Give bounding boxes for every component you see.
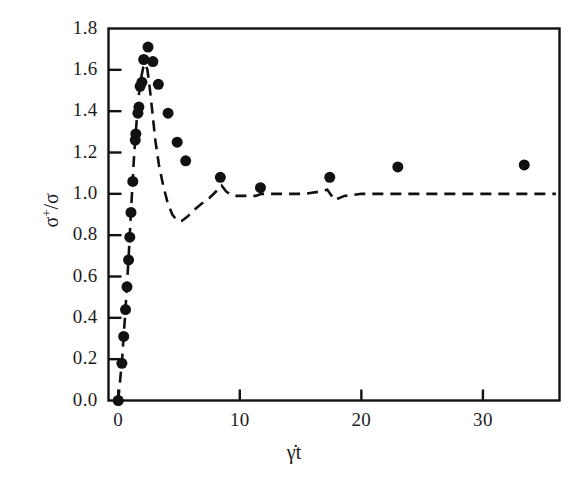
axis-ticks (109, 70, 483, 401)
data-point (120, 304, 131, 315)
data-point (113, 395, 124, 406)
data-point (519, 159, 530, 170)
y-axis-title: σ+/σ (39, 165, 64, 255)
y-tick-label: 1.6 (73, 58, 98, 80)
data-point (130, 128, 141, 139)
y-tick-label: 1.8 (73, 17, 98, 39)
data-point (138, 54, 149, 65)
y-tick-label: 0.8 (73, 223, 98, 245)
y-axis-title-slash: / (40, 204, 62, 210)
data-point (127, 176, 138, 187)
data-point (172, 137, 183, 148)
data-point (124, 232, 135, 243)
data-point (215, 172, 226, 183)
data-point (133, 102, 144, 113)
y-tick-label: 0.6 (73, 265, 98, 287)
data-point (180, 155, 191, 166)
data-point (121, 281, 132, 292)
data-point (136, 77, 147, 88)
data-point (392, 161, 403, 172)
data-point (116, 358, 127, 369)
y-axis-title-superscript: + (39, 209, 54, 216)
y-tick-label: 0.4 (73, 306, 98, 328)
y-tick-label: 1.4 (73, 99, 98, 121)
data-point-series (113, 42, 530, 406)
y-tick-label: 0.0 (73, 389, 98, 411)
data-point (143, 42, 154, 53)
data-point (255, 182, 266, 193)
y-axis-title-sigma-plus: σ (40, 217, 62, 228)
data-point (123, 254, 134, 265)
y-tick-label: 0.2 (73, 347, 98, 369)
data-point (147, 56, 158, 67)
model-prediction-dashed-line (118, 64, 556, 401)
x-tick-label: 10 (210, 409, 270, 431)
figure-stress-growth: 0.00.20.40.60.81.01.21.41.61.8 0102030 σ… (0, 0, 584, 488)
axes-frame (109, 29, 560, 401)
y-tick-label: 1.0 (73, 182, 98, 204)
data-point (153, 79, 164, 90)
x-tick-label: 20 (331, 409, 391, 431)
y-tick-label: 1.2 (73, 141, 98, 163)
data-point (125, 207, 136, 218)
y-axis-title-sigma: σ (40, 193, 62, 204)
data-point (118, 331, 129, 342)
data-point (324, 172, 335, 183)
data-point (163, 108, 174, 119)
x-tick-label: 0 (88, 409, 148, 431)
x-tick-label: 30 (453, 409, 513, 431)
x-axis-title: γ̇t (249, 441, 339, 464)
